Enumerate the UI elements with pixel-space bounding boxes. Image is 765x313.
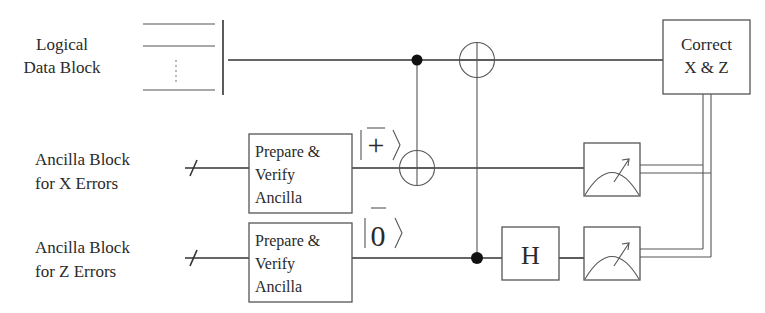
control-dot-icon [471,252,483,264]
box-label: Verify [255,166,295,184]
row-label-line: Ancilla Block [35,150,130,169]
box-label: Prepare & [255,143,321,161]
row-label-ancilla-z: Ancilla Block for Z Errors [35,238,130,281]
hadamard-gate: H [502,227,559,280]
row-label-line: for X Errors [35,174,118,193]
row-label-line: Logical [36,35,88,54]
oplus-crosshairs [400,60,495,168]
prepare-verify-box-z: Prepare & Verify Ancilla [249,223,352,302]
row-label-ancilla-x: Ancilla Block for X Errors [35,150,130,193]
box-label: Correct [681,35,732,54]
control-dot-icon [412,55,423,66]
classical-wires [640,94,711,257]
gate-label: H [521,241,540,270]
box-label: Prepare & [255,232,321,250]
row-label-line: Ancilla Block [35,238,130,257]
ket-symbol: 0 [371,219,386,252]
ket-symbol: + [368,128,385,161]
ancilla-x-wire [185,160,584,176]
ket-zero-label: 0 [365,208,402,252]
circuit-diagram: Logical Data Block Ancilla Block for X E… [0,0,765,313]
ellipsis-dots-icon [175,60,177,82]
cnot-data-to-ancilla-x [400,55,435,187]
prepare-verify-box-x: Prepare & Verify Ancilla [249,134,352,213]
box-label: X & Z [684,58,728,77]
row-label-line: Data Block [24,58,101,77]
measure-box-z [584,227,640,280]
measure-box-x [584,143,640,196]
row-label-line: for Z Errors [35,262,116,281]
ket-plus-label: + [361,128,400,161]
cnot-ancilla-z-to-data [460,42,495,264]
box-label: Ancilla [255,278,302,295]
correct-box: Correct X & Z [663,20,750,94]
data-block-bundle [143,20,223,95]
box-label: Verify [255,255,295,273]
box-label: Ancilla [255,189,302,206]
row-label-data: Logical Data Block [24,35,101,77]
